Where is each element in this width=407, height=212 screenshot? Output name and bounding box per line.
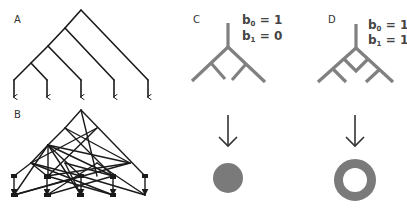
ring-shape — [339, 164, 372, 197]
panel-label-a: A — [14, 14, 21, 25]
panel-label-b: B — [14, 109, 21, 120]
betti-number-b0: b0 = 1 — [242, 13, 282, 28]
network-b — [14, 110, 145, 195]
betti-number-b0: b0 = 1 — [368, 18, 407, 33]
tree-a — [14, 10, 148, 97]
panel-b: B — [11, 109, 148, 197]
panel-c: C b0 = 1 b1 = 0 — [192, 13, 282, 193]
tree-c — [192, 23, 265, 82]
panel-a: A — [14, 10, 148, 97]
betti-number-b1: b1 = 1 — [368, 33, 407, 48]
panel-d: D b0 = 1 b1 = 1 — [318, 14, 407, 197]
figure: A B — [0, 0, 407, 212]
betti-number-b1: b1 = 0 — [242, 29, 282, 44]
arrow-down-icon — [219, 115, 237, 146]
panel-label-c: C — [193, 14, 200, 25]
panel-label-d: D — [328, 14, 336, 25]
filled-disk-shape — [213, 163, 243, 193]
arrow-down-icon — [346, 115, 364, 146]
